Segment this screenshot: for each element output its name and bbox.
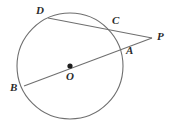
geometry-figure: D C P A B O <box>0 0 175 135</box>
point-label-P: P <box>157 31 164 42</box>
point-label-B: B <box>10 82 17 93</box>
point-label-A: A <box>126 45 133 56</box>
center-dot-icon <box>67 63 72 68</box>
point-label-C: C <box>112 15 119 26</box>
point-label-D: D <box>36 5 44 16</box>
point-label-O: O <box>66 71 74 82</box>
geometry-canvas <box>0 0 175 135</box>
secant-line-D-C-P <box>48 18 152 38</box>
